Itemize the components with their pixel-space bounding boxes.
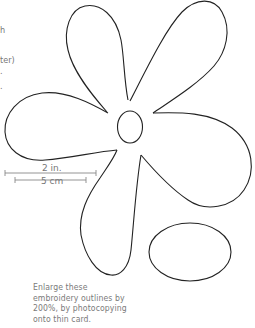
caption-line: onto thin card.	[33, 314, 143, 325]
flower-petal-top-right	[130, 1, 227, 113]
instruction-caption: Enlarge these embroidery outlines by 200…	[33, 282, 143, 324]
embroidery-template-art: 2 in. 5 cm	[0, 0, 255, 328]
caption-line: embroidery outlines by	[33, 293, 143, 304]
inch-label: 2 in.	[42, 163, 62, 173]
flower-petal-bottom	[80, 150, 141, 275]
oval-shape	[149, 223, 231, 281]
flower-petal-left	[5, 93, 117, 161]
flower-petal-top	[66, 6, 128, 112]
cm-label: 5 cm	[41, 176, 63, 186]
caption-line: Enlarge these	[33, 282, 143, 293]
flower-petal-right	[141, 113, 251, 207]
flower-center-circle	[118, 111, 143, 143]
caption-line: 200%, by photocopying	[33, 303, 143, 314]
